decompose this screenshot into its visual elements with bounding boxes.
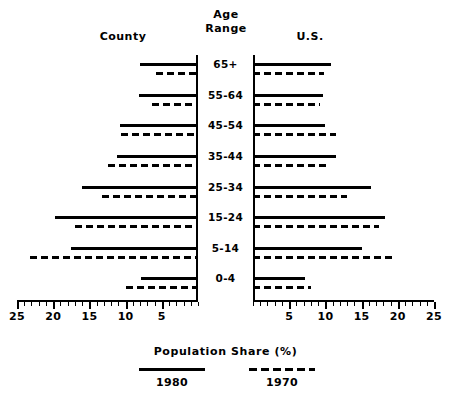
axis-tick-label: 20	[41, 310, 65, 323]
axis-tick-label: 5	[150, 310, 174, 323]
axis-tick-major	[53, 302, 55, 309]
bar-row	[17, 147, 198, 177]
age-range-label: 35-44	[198, 147, 253, 177]
legend-swatch-solid-icon	[139, 368, 205, 371]
bar-county-1970	[30, 256, 198, 259]
age-range-header-line1: Age	[198, 8, 254, 22]
axis-tick-label: 10	[114, 310, 138, 323]
bar-row	[253, 55, 434, 85]
axis-tick-major	[434, 302, 436, 309]
axis-tick-minor	[420, 302, 421, 306]
bar-county-1970	[102, 195, 198, 198]
x-axis-county: 252015105	[17, 300, 198, 330]
legend-item-1980: 1980	[122, 368, 222, 389]
axis-tick-label: 25	[422, 310, 446, 323]
plot-panel-us	[253, 55, 434, 300]
axis-tick-minor	[253, 302, 254, 306]
axis-tick-label: 25	[5, 310, 29, 323]
axis-tick-minor	[60, 302, 61, 306]
axis-tick-minor	[104, 302, 105, 306]
axis-tick-minor	[427, 302, 428, 306]
axis-tick-major	[126, 302, 128, 309]
axis-tick-minor	[354, 302, 355, 306]
axis-tick-minor	[75, 302, 76, 306]
axis-tick-minor	[111, 302, 112, 306]
legend-swatch-dashed-icon	[249, 368, 315, 371]
axis-tick-minor	[369, 302, 370, 306]
bar-us-1980	[253, 247, 362, 250]
axis-tick-minor	[267, 302, 268, 306]
county-axis-rule	[17, 300, 198, 302]
axis-tick-minor	[340, 302, 341, 306]
column-header-age-range: Age Range	[198, 8, 254, 36]
bar-county-1980	[120, 124, 198, 127]
bar-row	[253, 208, 434, 238]
axis-tick-label: 10	[313, 310, 337, 323]
axis-tick-minor	[39, 302, 40, 306]
bar-row	[17, 55, 198, 85]
bar-county-1980	[71, 247, 198, 250]
bar-us-1980	[253, 277, 305, 280]
axis-tick-minor	[68, 302, 69, 306]
axis-tick-minor	[391, 302, 392, 306]
axis-tick-minor	[275, 302, 276, 306]
axis-tick-major	[362, 302, 364, 309]
bar-row	[253, 116, 434, 146]
axis-tick-major	[325, 302, 327, 309]
axis-tick-label: 5	[277, 310, 301, 323]
bar-row	[253, 239, 434, 269]
bar-row	[17, 208, 198, 238]
axis-tick-minor	[376, 302, 377, 306]
bar-county-1980	[82, 186, 198, 189]
legend-label-1980: 1980	[122, 376, 222, 389]
axis-tick-minor	[184, 302, 185, 306]
x-axis-us: 510152025	[253, 300, 434, 330]
bar-row	[253, 269, 434, 299]
bar-county-1970	[75, 225, 198, 228]
axis-tick-major	[398, 302, 400, 309]
bar-us-1980	[253, 155, 336, 158]
bar-us-1970	[253, 103, 320, 106]
axis-title: Population Share (%)	[0, 345, 451, 358]
axis-tick-minor	[383, 302, 384, 306]
axis-tick-minor	[31, 302, 32, 306]
bar-us-1980	[253, 216, 385, 219]
axis-tick-minor	[412, 302, 413, 306]
axis-tick-minor	[169, 302, 170, 306]
age-range-label-column: 65+55-6445-5435-4425-3415-245-140-4	[198, 55, 253, 300]
axis-tick-minor	[118, 302, 119, 306]
axis-tick-minor	[97, 302, 98, 306]
axis-tick-minor	[24, 302, 25, 306]
age-range-label: 65+	[198, 55, 253, 85]
bar-county-1970	[156, 72, 198, 75]
population-pyramid-chart: County Age Range U.S. 65+55-6445-5435-44…	[0, 0, 451, 396]
age-range-header-line2: Range	[198, 22, 254, 36]
age-range-label: 45-54	[198, 116, 253, 146]
age-range-label: 25-34	[198, 178, 253, 208]
axis-tick-minor	[191, 302, 192, 306]
bar-us-1970	[253, 133, 336, 136]
bar-county-1980	[139, 94, 198, 97]
bar-us-1980	[253, 124, 325, 127]
bar-county-1980	[141, 277, 198, 280]
bar-us-1970	[253, 225, 379, 228]
axis-tick-minor	[198, 302, 199, 306]
age-range-label: 0-4	[198, 269, 253, 299]
bar-row	[253, 86, 434, 116]
bar-row	[17, 116, 198, 146]
bar-us-1970	[253, 256, 396, 259]
axis-tick-minor	[46, 302, 47, 306]
bar-us-1980	[253, 63, 331, 66]
bar-county-1970	[152, 103, 198, 106]
axis-tick-minor	[82, 302, 83, 306]
bar-county-1980	[117, 155, 198, 158]
bar-us-1970	[253, 286, 311, 289]
axis-tick-minor	[155, 302, 156, 306]
axis-tick-minor	[333, 302, 334, 306]
axis-tick-minor	[296, 302, 297, 306]
axis-tick-minor	[140, 302, 141, 306]
bar-us-1970	[253, 164, 330, 167]
age-range-label: 15-24	[198, 208, 253, 238]
axis-tick-major	[89, 302, 91, 309]
bar-row	[17, 269, 198, 299]
